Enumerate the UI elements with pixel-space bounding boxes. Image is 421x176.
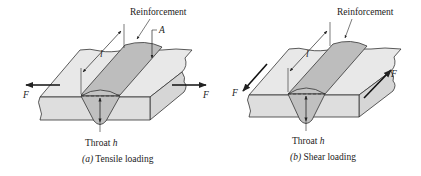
- figure-shear-loading: Reinforcement l F F Throat h (b) Shear l…: [231, 7, 401, 163]
- force-right-label: F: [202, 90, 209, 100]
- caption-shear-loading: (b) Shear loading: [290, 152, 356, 163]
- force-left-label: F: [22, 90, 29, 100]
- area-label: A: [158, 25, 165, 35]
- caption-tensile-loading: (a) Tensile loading: [82, 154, 154, 165]
- length-label: l: [100, 49, 103, 59]
- throat-label: Throat h: [292, 136, 325, 146]
- figure-tensile-loading: Reinforcement A l F F Throat h (a) Tensi…: [22, 7, 209, 165]
- reinforcement-label: Reinforcement: [337, 7, 394, 17]
- force-right-label: F: [390, 69, 397, 79]
- throat-label: Throat h: [85, 138, 118, 148]
- weld-diagram: Reinforcement A l F F Throat h (a) Tensi…: [0, 0, 421, 176]
- length-label: l: [306, 49, 309, 59]
- force-left-label: F: [231, 88, 238, 98]
- reinforcement-label: Reinforcement: [130, 7, 187, 17]
